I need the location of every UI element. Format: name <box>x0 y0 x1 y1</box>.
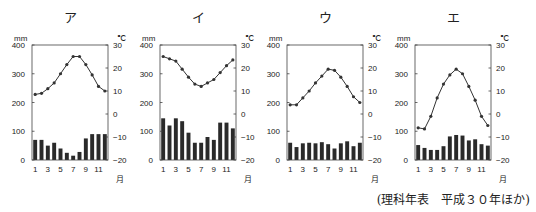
month-tick-label: 9 <box>467 165 472 174</box>
month-tick-label: 1 <box>161 165 166 174</box>
bar <box>288 143 292 160</box>
left-tick-label: 200 <box>267 99 281 108</box>
temperature-marker <box>91 73 94 76</box>
bar <box>435 150 439 160</box>
temperature-marker <box>314 81 317 84</box>
left-tick-label: 0 <box>149 156 154 165</box>
bar <box>345 141 349 160</box>
temperature-marker <box>65 63 68 66</box>
chart-title: イ <box>192 10 205 25</box>
bar <box>295 147 299 160</box>
bar <box>416 145 420 160</box>
temperature-marker <box>417 126 420 129</box>
temperature-marker <box>333 69 336 72</box>
temperature-marker <box>103 89 106 92</box>
month-tick-label: 3 <box>174 165 179 174</box>
temperature-marker <box>231 58 234 61</box>
bar <box>352 146 356 160</box>
bar <box>307 143 311 160</box>
temperature-marker <box>212 78 215 81</box>
bar <box>423 148 427 160</box>
bar <box>174 118 178 160</box>
right-tick-label: 30 <box>368 41 377 50</box>
bar <box>467 140 471 160</box>
month-tick-label: 11 <box>477 165 486 174</box>
left-tick-label: 300 <box>12 70 26 79</box>
month-tick-label: 7 <box>326 165 331 174</box>
temperature-marker <box>308 89 311 92</box>
right-tick-label: 20 <box>113 64 122 73</box>
month-unit-label: 月 <box>499 175 507 184</box>
temperature-marker <box>339 76 342 79</box>
month-tick-label: 9 <box>84 165 89 174</box>
right-tick-label: 30 <box>496 41 505 50</box>
temperature-marker <box>34 93 37 96</box>
bar <box>461 136 465 160</box>
right-tick-label: 0 <box>241 110 246 119</box>
bar <box>180 121 184 160</box>
temperature-marker <box>320 74 323 77</box>
bar <box>333 149 337 161</box>
month-tick-label: 9 <box>339 165 344 174</box>
right-tick-label: −10 <box>241 133 255 142</box>
temperature-marker <box>467 85 470 88</box>
month-tick-label: 5 <box>313 165 318 174</box>
bar <box>218 123 222 160</box>
bar <box>320 142 324 160</box>
right-tick-label: 10 <box>241 87 250 96</box>
temperature-marker <box>97 85 100 88</box>
right-tick-label: 0 <box>113 110 118 119</box>
month-unit-label: 月 <box>116 175 124 184</box>
right-tick-label: −20 <box>496 156 510 165</box>
bar <box>301 143 305 160</box>
bar <box>480 144 484 160</box>
bar <box>52 143 56 160</box>
bar <box>168 126 172 161</box>
left-tick-label: 400 <box>140 41 154 50</box>
right-tick-label: 0 <box>368 110 373 119</box>
chart-2: イmm℃40030020010003020100−10−201357911月 <box>140 10 255 184</box>
bar <box>90 134 94 160</box>
temperature-marker <box>327 68 330 71</box>
bar <box>454 135 458 160</box>
month-tick-label: 7 <box>71 165 76 174</box>
right-tick-label: 20 <box>496 64 505 73</box>
temperature-marker <box>295 103 298 106</box>
left-tick-label: 400 <box>267 41 281 50</box>
right-tick-label: 10 <box>113 87 122 96</box>
plot-frame <box>415 45 491 160</box>
left-tick-label: 0 <box>404 156 409 165</box>
temperature-marker <box>474 99 477 102</box>
month-tick-label: 11 <box>222 165 231 174</box>
bar <box>225 123 229 160</box>
temperature-marker <box>206 81 209 84</box>
right-tick-label: 10 <box>368 87 377 96</box>
month-tick-label: 1 <box>288 165 293 174</box>
right-tick-label: −10 <box>113 133 127 142</box>
month-tick-label: 7 <box>454 165 459 174</box>
left-tick-label: 300 <box>140 70 154 79</box>
chart-4: エmm℃40030020010003020100−10−201357911月 <box>395 10 510 184</box>
temperature-marker <box>46 87 49 90</box>
temperature-marker <box>346 85 349 88</box>
temperature-marker <box>168 57 171 60</box>
temperature-marker <box>358 101 361 104</box>
right-tick-label: 10 <box>496 87 505 96</box>
temperature-marker <box>59 72 62 75</box>
month-unit-label: 月 <box>244 175 252 184</box>
bar <box>84 138 88 160</box>
chart-title: ウ <box>319 10 332 25</box>
left-tick-label: 400 <box>12 41 26 50</box>
bar <box>326 144 330 160</box>
climate-charts: アmm℃40030020010003020100−10−201357911月イm… <box>0 0 536 212</box>
temperature-marker <box>301 96 304 99</box>
precipitation-bars <box>288 141 362 160</box>
temperature-marker <box>480 115 483 118</box>
bar <box>187 133 191 160</box>
right-tick-label: −10 <box>368 133 382 142</box>
bar <box>231 128 235 160</box>
chart-3: ウmm℃40030020010003020100−10−201357911月 <box>267 10 382 184</box>
temperature-marker <box>225 64 228 67</box>
bar <box>199 143 203 160</box>
left-tick-label: 100 <box>140 127 154 136</box>
